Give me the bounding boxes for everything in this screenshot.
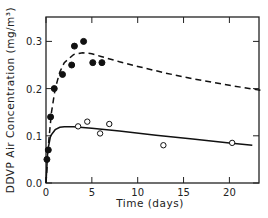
model-curves bbox=[46, 53, 262, 183]
y-tick-label: 0.1 bbox=[26, 131, 42, 142]
plot-frame bbox=[46, 17, 259, 183]
open-circle-point bbox=[161, 143, 166, 148]
axis-ticks: 051015200.00.10.20.3 bbox=[26, 17, 259, 198]
filled-circle-point bbox=[51, 86, 57, 92]
dashed-curve bbox=[46, 53, 262, 183]
x-axis-label: Time (days) bbox=[115, 197, 184, 209]
x-tick-label: 0 bbox=[43, 187, 49, 198]
open-circle-point bbox=[97, 131, 102, 136]
x-tick-label: 5 bbox=[89, 187, 95, 198]
open-circle-point bbox=[107, 121, 112, 126]
filled-circle-point bbox=[81, 38, 87, 44]
filled-circle-point bbox=[69, 62, 75, 68]
filled-circle-point bbox=[60, 71, 66, 77]
filled-circle-point bbox=[45, 147, 51, 153]
filled-circle-point bbox=[44, 156, 50, 162]
open-circle-point bbox=[85, 119, 90, 124]
filled-circle-point bbox=[71, 43, 77, 49]
y-tick-label: 0.3 bbox=[26, 36, 42, 47]
y-axis-label: DDVP Air Concentration (mg/m³) bbox=[4, 7, 16, 193]
filled-circle-point bbox=[99, 60, 105, 66]
data-points bbox=[44, 38, 235, 162]
y-tick-label: 0.0 bbox=[26, 178, 42, 189]
filled-circle-point bbox=[48, 114, 54, 120]
y-tick-label: 0.2 bbox=[26, 84, 42, 95]
solid-curve bbox=[46, 127, 252, 183]
chart: 051015200.00.10.20.3 Time (days) DDVP Ai… bbox=[0, 0, 268, 218]
plot-border bbox=[46, 17, 259, 183]
filled-circle-point bbox=[90, 60, 96, 66]
open-circle-point bbox=[75, 124, 80, 129]
x-tick-label: 20 bbox=[223, 187, 236, 198]
open-circle-point bbox=[229, 140, 234, 145]
